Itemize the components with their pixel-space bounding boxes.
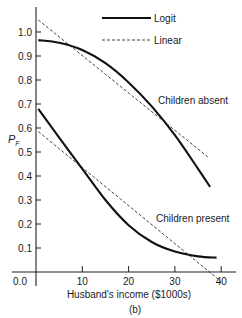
labels: Children absentChildren presentPFHusband… — [8, 95, 230, 315]
legend: LogitLinear — [102, 13, 182, 46]
y-axis-label: PF — [8, 133, 20, 147]
annotation-children-present: Children present — [156, 213, 230, 224]
x-tick-label: 30 — [169, 276, 181, 287]
x-tick-label: 20 — [123, 276, 135, 287]
linear-line — [38, 132, 221, 282]
y-tick-label: 1.0 — [18, 27, 32, 38]
y-tick-label: 0.4 — [18, 171, 32, 182]
y-tick-label: 0.2 — [18, 219, 32, 230]
legend-logit-label: Logit — [154, 13, 176, 24]
x-axis-label: Husband's income ($1000s) — [67, 289, 191, 300]
logit-curve — [38, 40, 210, 187]
y-tick-label: 0.1 — [18, 243, 32, 254]
x-tick-label: 0.0 — [13, 276, 27, 287]
y-tick-label: 0.8 — [18, 75, 32, 86]
axes: 0.10.20.30.40.50.60.70.80.91.00.01020304… — [12, 7, 236, 287]
legend-linear-label: Linear — [154, 35, 182, 46]
chart: 0.10.20.30.40.50.60.70.80.91.00.01020304… — [0, 0, 242, 318]
y-tick-label: 0.7 — [18, 99, 32, 110]
y-tick-label: 0.6 — [18, 123, 32, 134]
figure-caption: (b) — [129, 304, 141, 315]
series-lines — [38, 20, 221, 282]
y-tick-label: 0.3 — [18, 195, 32, 206]
linear-line — [38, 20, 209, 158]
y-tick-label: 0.9 — [18, 51, 32, 62]
y-tick-label: 0.5 — [18, 147, 32, 158]
logit-curve — [38, 109, 216, 258]
annotation-children-absent: Children absent — [158, 95, 228, 106]
x-tick-label: 40 — [216, 276, 228, 287]
x-tick-label: 10 — [77, 276, 89, 287]
